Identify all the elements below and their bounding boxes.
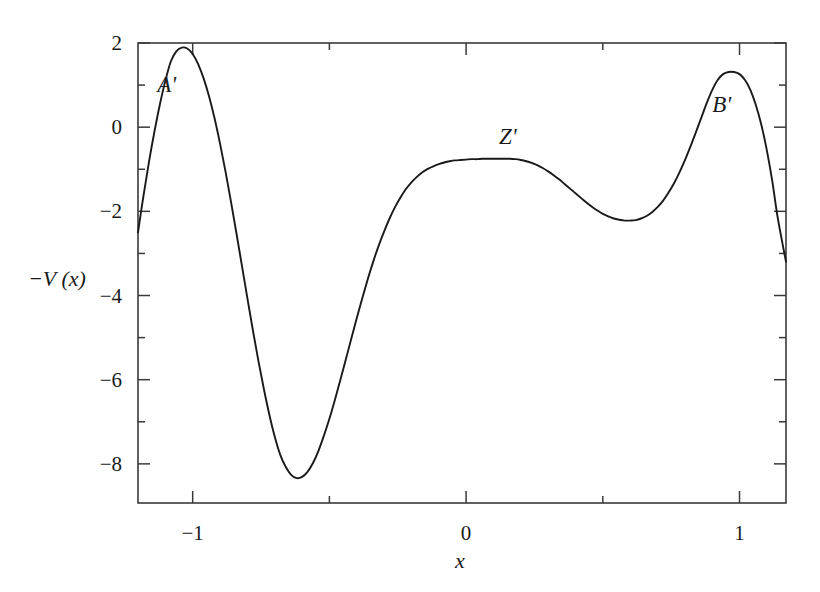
x-axis-title: x xyxy=(455,550,465,572)
curve-point-label: B' xyxy=(712,93,731,116)
x-tick-label: 1 xyxy=(734,523,745,544)
x-tick-label: 0 xyxy=(461,523,472,544)
y-axis-title: −V (x) xyxy=(28,268,86,290)
y-tick-label: 0 xyxy=(70,117,122,138)
plot-figure: 20−2−4−6−8 −101 A'Z'B' −V (x) x xyxy=(0,0,820,592)
axis-ticks xyxy=(138,43,786,503)
plot-canvas xyxy=(0,0,820,592)
curve-point-label: Z' xyxy=(499,125,517,148)
data-curve xyxy=(138,47,786,478)
y-tick-label: −6 xyxy=(70,369,122,390)
x-tick-label: −1 xyxy=(182,523,204,544)
y-tick-label: 2 xyxy=(70,33,122,54)
axes-frame xyxy=(138,43,786,503)
y-tick-label: −2 xyxy=(70,201,122,222)
curve-point-label: A' xyxy=(157,73,176,96)
y-tick-label: −8 xyxy=(70,453,122,474)
